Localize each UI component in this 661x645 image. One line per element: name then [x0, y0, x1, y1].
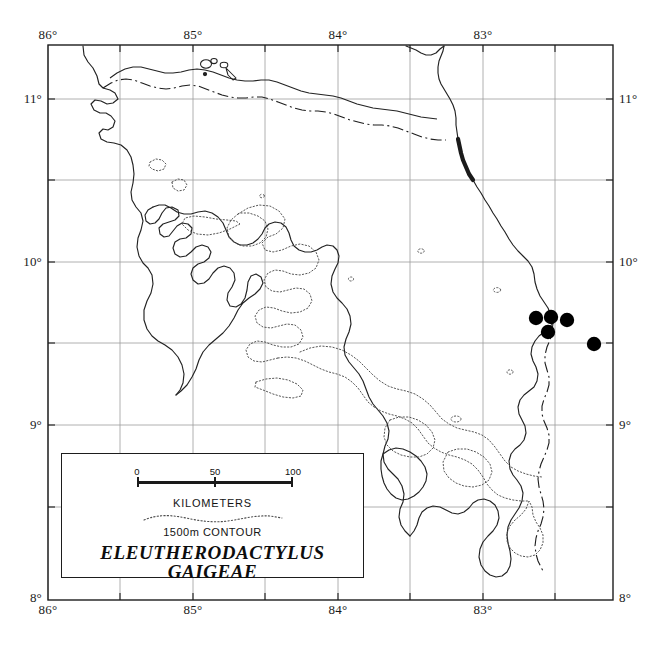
map-legend: 0 50 100 KILOMETERS 1500m CONTOUR ELEUTH… [61, 453, 364, 578]
lat-label-right-10: 10° [619, 254, 638, 270]
scale-bar: 0 50 100 [137, 466, 293, 496]
lat-label-right-9: 9° [619, 417, 631, 433]
lon-label-top-85: 85° [184, 27, 203, 43]
lon-label-top-84: 84° [329, 27, 348, 43]
lon-label-bottom-85: 85° [184, 602, 203, 618]
lon-label-top-86: 86° [39, 27, 58, 43]
scale-tick-label-0: 0 [134, 466, 139, 477]
lon-label-bottom-84: 84° [329, 602, 348, 618]
scale-tick-start [137, 477, 139, 487]
lat-label-left-10: 10° [23, 254, 42, 270]
lat-label-left-8: 8° [30, 590, 42, 606]
contour-legend-label: 1500m CONTOUR [62, 526, 363, 538]
locality-point [560, 313, 574, 327]
locality-point [529, 311, 543, 325]
lat-label-right-11: 11° [619, 91, 637, 107]
lon-label-top-83: 83° [474, 27, 493, 43]
lon-label-bottom-83: 83° [474, 602, 493, 618]
locality-point [587, 337, 601, 351]
lat-label-left-9: 9° [30, 417, 42, 433]
species-genus: ELEUTHERODACTYLUS [62, 543, 363, 562]
scale-tick-end [291, 477, 293, 487]
locality-point [541, 325, 555, 339]
locality-point [544, 310, 558, 324]
contour-sample-icon [142, 512, 284, 526]
species-epithet: GAIGEAE [62, 562, 363, 581]
scale-unit-label: KILOMETERS [62, 497, 363, 509]
lat-label-right-8: 8° [619, 590, 631, 606]
scale-tick-label-50: 50 [210, 466, 221, 477]
scale-tick-mid [214, 477, 216, 487]
scale-tick-label-100: 100 [285, 466, 301, 477]
lat-label-left-11: 11° [24, 91, 42, 107]
species-name: ELEUTHERODACTYLUS GAIGEAE [62, 543, 363, 581]
